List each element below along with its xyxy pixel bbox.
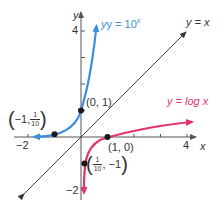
tick-y-neg2: −2: [66, 185, 79, 196]
identity-line-label: y = x: [186, 17, 210, 28]
log-curve-label-text: y = log: [167, 95, 203, 107]
point-neg1-tenth: [52, 131, 58, 137]
point-neg1-tenth-label: (−1,110): [8, 109, 47, 129]
x-axis-label: x: [200, 141, 206, 152]
point-0-1-label: (0, 1): [86, 97, 112, 108]
exp-curve-label-exp: x: [137, 17, 141, 24]
paren-open: (: [8, 108, 15, 130]
log-curve-label-var: x: [203, 95, 209, 107]
tick-x-4: 4: [183, 140, 189, 151]
point-0-1: [78, 108, 84, 114]
fraction-num: 1: [30, 111, 40, 120]
coord-y: , −1: [102, 158, 121, 170]
point-1-0-label: (1, 0): [108, 142, 134, 153]
fraction-den: 10: [93, 165, 103, 173]
exp-curve-label-text: y = 10: [107, 18, 137, 30]
point-tenth-neg1-label: (110, −1): [86, 154, 128, 174]
fraction-num: 1: [93, 156, 103, 165]
log-exp-inverse-graph: y x −2 4 4 −2 yy = 10x y = x y = log x (…: [0, 0, 223, 205]
tick-x-neg2: −2: [16, 140, 29, 151]
paren-close: ): [121, 153, 128, 175]
log-curve-label: y = log x: [167, 96, 208, 107]
fraction-den: 10: [30, 120, 40, 128]
fraction: 110: [93, 156, 103, 173]
coord-x: −1,: [15, 113, 31, 125]
paren-open: (: [86, 153, 93, 175]
tick-y-4: 4: [72, 25, 78, 36]
y-axis-label: y: [73, 10, 79, 21]
fraction: 110: [30, 111, 40, 128]
exp-curve-label: yy = 10x: [101, 17, 140, 30]
paren-close: ): [40, 108, 47, 130]
point-1-0: [105, 134, 111, 140]
